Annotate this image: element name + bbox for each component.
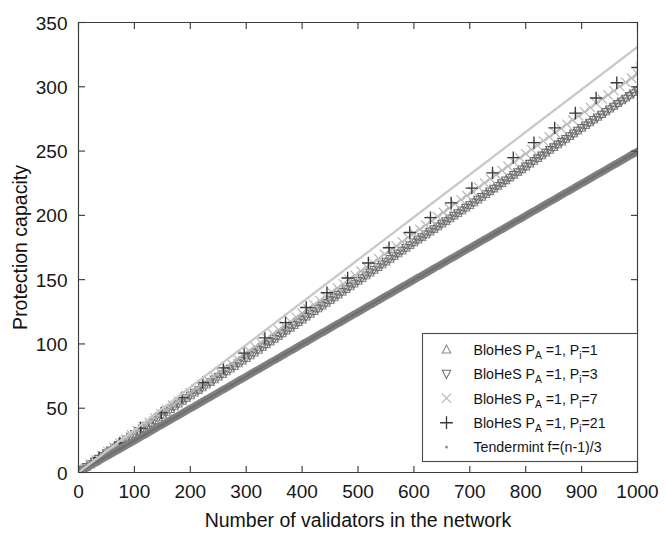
- x-tick-label: 300: [230, 481, 262, 502]
- x-tick-label: 1000: [616, 481, 658, 502]
- marker-x: [480, 178, 489, 187]
- marker-plus: [445, 197, 457, 209]
- marker-x: [562, 120, 571, 129]
- x-tick-label: 100: [119, 481, 151, 502]
- y-tick-label: 50: [46, 398, 67, 419]
- y-tick-label: 150: [36, 270, 68, 291]
- y-tick-label: 350: [36, 13, 68, 34]
- y-tick-label: 300: [36, 77, 68, 98]
- x-tick-label: 400: [286, 481, 318, 502]
- x-axis-title: Number of validators in the network: [205, 509, 512, 531]
- marker-x: [527, 145, 536, 154]
- protection-capacity-chart: 0100200300400500600700800900100005010015…: [0, 0, 666, 547]
- x-tick-label: 500: [342, 481, 374, 502]
- marker-x: [486, 174, 495, 183]
- legend-item-label: Tendermint f=(n-1)/3: [474, 439, 602, 455]
- marker-x: [462, 191, 471, 200]
- y-tick-label: 250: [36, 141, 68, 162]
- y-tick-label: 200: [36, 205, 68, 226]
- marker-x: [392, 241, 401, 250]
- marker-x: [603, 90, 612, 99]
- marker-x: [503, 162, 512, 171]
- x-tick-label: 0: [73, 481, 84, 502]
- marker-x: [450, 199, 459, 208]
- x-tick-label: 900: [566, 481, 598, 502]
- y-tick-label: 100: [36, 334, 68, 355]
- chart-figure: 0100200300400500600700800900100005010015…: [0, 0, 666, 547]
- marker-x: [456, 195, 465, 204]
- marker-x: [539, 136, 548, 145]
- marker-plus: [507, 151, 519, 163]
- marker-x: [439, 208, 448, 217]
- x-tick-label: 200: [174, 481, 206, 502]
- marker-x: [598, 95, 607, 104]
- marker-plus: [548, 122, 560, 134]
- marker-x: [498, 166, 507, 175]
- x-tick-label: 800: [510, 481, 542, 502]
- marker-plus: [590, 92, 602, 104]
- marker-x: [521, 149, 530, 158]
- marker-x: [586, 103, 595, 112]
- marker-x: [474, 183, 483, 192]
- marker-plus: [466, 182, 478, 194]
- x-tick-label: 700: [454, 481, 486, 502]
- legend: BloHeS PA =1, Pi=1BloHeS PA =1, Pi=3BloH…: [423, 334, 638, 462]
- marker-x: [580, 107, 589, 116]
- x-tick-label: 600: [398, 481, 430, 502]
- marker-x: [433, 212, 442, 221]
- marker-x: [415, 225, 424, 234]
- marker-x: [445, 204, 454, 213]
- y-axis-title: Protection capacity: [9, 165, 31, 330]
- marker-x: [545, 132, 554, 141]
- marker-dot: [445, 446, 448, 449]
- marker-x: [627, 74, 636, 83]
- marker-x: [403, 233, 412, 242]
- marker-x: [380, 250, 389, 259]
- y-tick-label: 0: [57, 463, 68, 484]
